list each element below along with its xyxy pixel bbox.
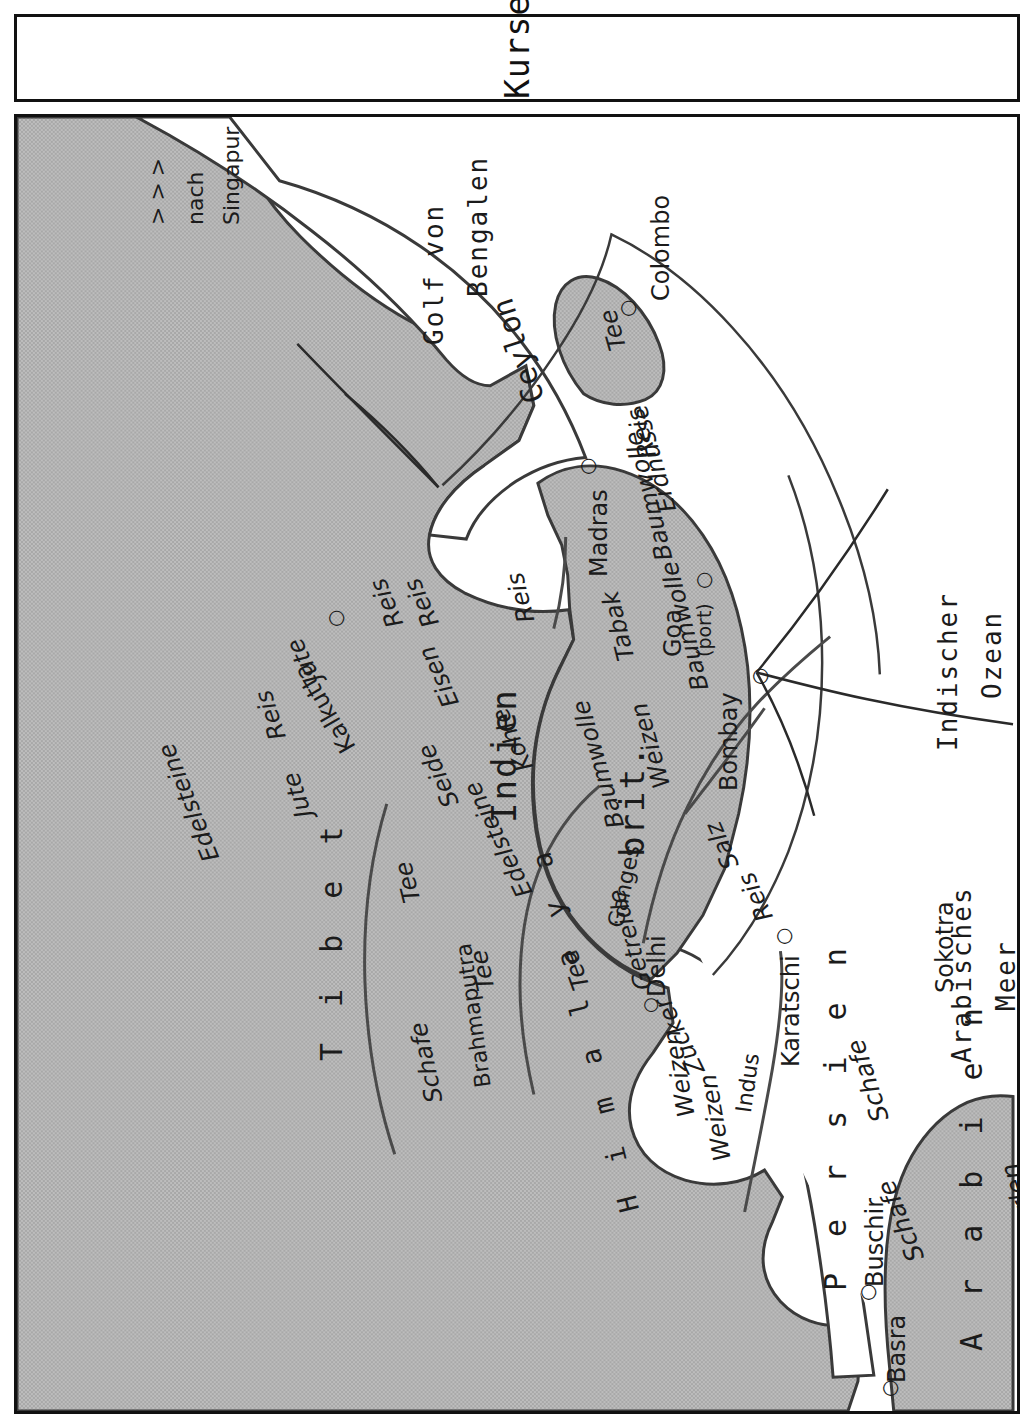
map-frame: P e r s i e n A r a b i e n T i b e t H … <box>14 114 1020 1414</box>
sea-label-indischer-ozean-line1: Indischer <box>935 592 961 751</box>
region-label-persien: P e r s i e n <box>821 939 851 1291</box>
city-label-karatschi: Karatschi <box>779 955 803 1067</box>
buschir-port-marker: ○ <box>857 1284 877 1301</box>
karatschi-port-marker: ○ <box>773 928 793 945</box>
basra-port-marker: ○ <box>879 1380 899 1397</box>
route-note-singapore-line1: nach <box>185 172 207 225</box>
route-arrow-singapore: >>> <box>147 152 169 225</box>
city-label-colombo: Colombo <box>649 195 673 301</box>
sea-label-golf-von-bengalen-line1: Golf von <box>421 204 447 345</box>
sea-label-indischer-ozean-line2: Ozean <box>979 611 1005 699</box>
bombay-port-marker: ○ <box>749 668 769 685</box>
island-label-sokotra: Sokotra <box>933 901 957 993</box>
madras-port-marker: ○ <box>577 458 597 475</box>
map-page: P e r s i e n A r a b i e n T i b e t H … <box>0 0 1034 1428</box>
title-frame: Kurse der Brit. India Steam Handelsgüter <box>14 14 1020 102</box>
route-note-singapore-line2: Singapur <box>221 127 243 225</box>
city-label-bombay: Bombay <box>717 692 741 791</box>
kalkutta-port-marker: ○ <box>325 610 345 627</box>
map-title-left: Kurse der Brit. India Steam <box>498 0 537 99</box>
city-label-madras: Madras <box>587 489 611 577</box>
sea-label-arabisches-meer-line2: Meer <box>993 940 1019 1011</box>
rotated-map-canvas: P e r s i e n A r a b i e n T i b e t H … <box>0 0 1034 1428</box>
region-label-tibet: T i b e t <box>317 817 347 1061</box>
city-label-basra: Basra <box>885 1315 909 1383</box>
goa-port-marker: ○ <box>693 572 713 589</box>
sea-label-golf-von-bengalen-line2: Bengalen <box>465 156 491 297</box>
